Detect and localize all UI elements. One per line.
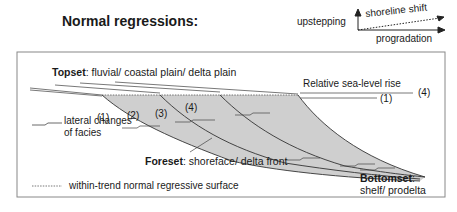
unit-label-3: (3) xyxy=(155,108,167,119)
topset-lines xyxy=(30,82,298,96)
foreset-label: Foreset: shoreface/ delta front xyxy=(145,155,287,167)
sea-level-marker-1: (1) xyxy=(380,93,392,104)
sea-level-label: Relative sea-level rise xyxy=(303,78,401,89)
sea-level-lines xyxy=(300,93,413,98)
sea-level-marker-4: (4) xyxy=(418,87,430,98)
facies-legend-line2: of facies xyxy=(64,127,101,138)
bottomset-sublabel: shelf/ prodelta xyxy=(360,184,426,196)
unit-label-4: (4) xyxy=(185,102,197,113)
clinoform-wedge xyxy=(102,95,425,181)
facies-legend-line1: lateral changes xyxy=(64,115,132,126)
surface-legend-label: within-trend normal regressive surface xyxy=(69,180,239,191)
upstepping-label: upstepping xyxy=(297,16,346,27)
facies-legend-symbol xyxy=(32,123,62,125)
topset-label: Topset: fluvial/ coastal plain/ delta pl… xyxy=(52,66,236,78)
bottomset-label: Bottomset: xyxy=(360,172,415,184)
progradation-label: progradation xyxy=(376,33,432,44)
page-title: Normal regressions: xyxy=(62,13,198,29)
